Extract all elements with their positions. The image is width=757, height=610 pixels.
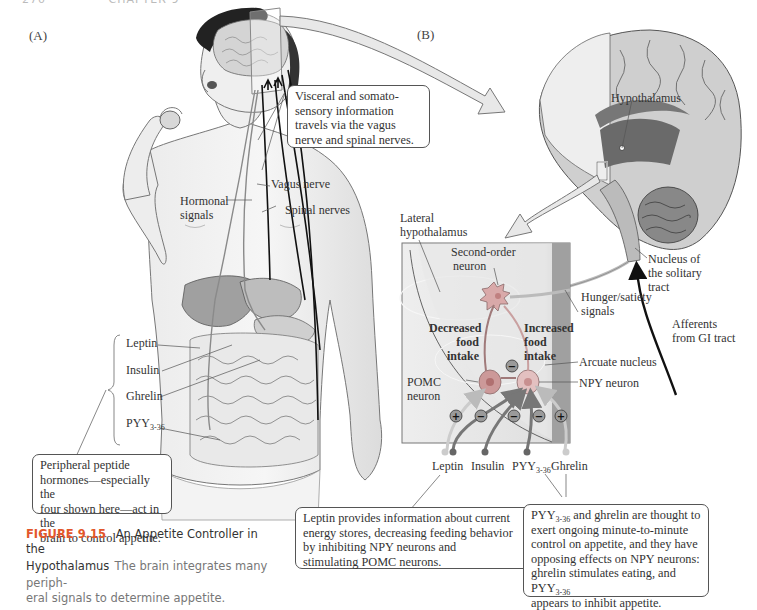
text: ghrelin stimulates eating, and PYY bbox=[531, 566, 676, 595]
label-line: POMC bbox=[407, 375, 441, 389]
input-label-ghrelin: Ghrelin bbox=[551, 459, 588, 473]
callout-peripheral-hormones: Peripheral peptide hormones—especially t… bbox=[32, 454, 172, 514]
callout-line: stimulating POMC neurons. bbox=[303, 555, 527, 570]
label-spinal-nerves: Spinal nerves bbox=[285, 203, 350, 217]
callout-visceral-somatosensory: Visceral and somato- sensory information… bbox=[287, 85, 430, 148]
label-line: food bbox=[524, 335, 574, 349]
label-npy-neuron: NPY neuron bbox=[579, 376, 639, 390]
label-line: intake bbox=[429, 349, 479, 363]
label-line: tract bbox=[648, 280, 702, 294]
hormone-label-leptin: Leptin bbox=[126, 336, 157, 350]
callout-line: Peripheral peptide bbox=[40, 458, 164, 473]
label-line: Decreased bbox=[429, 321, 479, 335]
label-line: neuron bbox=[407, 389, 441, 403]
label-vagus-nerve: Vagus nerve bbox=[271, 177, 330, 191]
caption-title-line2: Hypothalamus bbox=[26, 559, 109, 573]
callout-line: appears to inhibit appetite. bbox=[531, 596, 701, 610]
hormone-label-pyy: PYY3-36 bbox=[126, 416, 165, 430]
zoom-arrow-to-inset bbox=[505, 175, 600, 238]
callout-line: hormones—especially the bbox=[40, 473, 164, 502]
callout-line: Visceral and somato- bbox=[295, 89, 422, 104]
svg-text:−: − bbox=[535, 411, 543, 422]
label-line: neuron bbox=[451, 259, 516, 273]
callout-line: exert ongoing minute-to-minute bbox=[531, 523, 701, 538]
text: and ghrelin are thought to bbox=[570, 508, 700, 522]
callout-line: Leptin provides information about curren… bbox=[303, 511, 527, 526]
label-afferents-gi: Afferents from GI tract bbox=[672, 317, 735, 345]
figure-caption: FIGURE 9.15 An Appetite Controller in th… bbox=[26, 527, 276, 606]
input-label-pyy: PYY3-36 bbox=[512, 459, 551, 473]
label-line: signals bbox=[180, 208, 229, 222]
label-line: the solitary bbox=[648, 266, 702, 280]
label-line: intake bbox=[524, 349, 574, 363]
input-label-leptin: Leptin bbox=[432, 459, 463, 473]
label-line: signals bbox=[581, 304, 652, 318]
callout-pyy-ghrelin: PYY3-36 and ghrelin are thought to exert… bbox=[523, 504, 709, 597]
caption-body-line2: eral signals to determine appetite. bbox=[26, 591, 276, 606]
label-hypothalamus: Hypothalamus bbox=[611, 91, 681, 105]
callout-line: nerve and spinal nerves. bbox=[295, 133, 422, 148]
label-line: Hunger/satiety bbox=[581, 290, 652, 304]
label-line: from GI tract bbox=[672, 331, 735, 345]
label-lateral-hypothalamus: Lateral hypothalamus bbox=[400, 211, 467, 239]
label-line: Increased bbox=[524, 321, 574, 335]
label-line: Nucleus of bbox=[648, 252, 702, 266]
input-label-insulin: Insulin bbox=[471, 459, 504, 473]
callout-line: travels via the vagus bbox=[295, 118, 422, 133]
svg-text:+: + bbox=[452, 411, 460, 422]
callout-line: control on appetite, and they have bbox=[531, 537, 701, 552]
callout-line: sensory information bbox=[295, 104, 422, 119]
callout-line: opposing effects on NPY neurons: bbox=[531, 552, 701, 567]
label-hunger-satiety: Hunger/satiety signals bbox=[581, 290, 652, 318]
label-pomc-neuron: POMC neuron bbox=[407, 375, 441, 403]
figure-number: FIGURE 9.15 bbox=[26, 527, 106, 541]
label-line: Second-order bbox=[451, 245, 516, 259]
label-line: Afferents bbox=[672, 317, 735, 331]
label-hormonal-signals: Hormonal signals bbox=[180, 194, 229, 222]
callout-line: PYY3-36 and ghrelin are thought to bbox=[531, 508, 701, 523]
text: PYY bbox=[531, 508, 556, 522]
label-text: PYY bbox=[512, 459, 536, 473]
label-second-order-neuron: Second-order neuron bbox=[451, 245, 516, 273]
label-line: Lateral bbox=[400, 211, 467, 225]
callout-line: ghrelin stimulates eating, and PYY3-36 bbox=[531, 566, 701, 595]
svg-text:+: + bbox=[557, 411, 565, 422]
label-line: food bbox=[429, 335, 479, 349]
label-subscript: 3-36 bbox=[536, 466, 551, 475]
label-subscript: 3-36 bbox=[150, 423, 165, 432]
hormone-label-insulin: Insulin bbox=[126, 363, 159, 377]
label-decreased-food-intake: Decreased food intake bbox=[429, 321, 479, 363]
hormone-label-ghrelin: Ghrelin bbox=[126, 389, 163, 403]
callout-line: energy stores, decreasing feeding behavi… bbox=[303, 526, 527, 541]
label-text: PYY bbox=[126, 416, 150, 430]
svg-text:−: − bbox=[477, 411, 485, 422]
callout-leptin: Leptin provides information about curren… bbox=[295, 507, 535, 569]
callout-line: by inhibiting NPY neurons and bbox=[303, 540, 527, 555]
label-increased-food-intake: Increased food intake bbox=[524, 321, 574, 363]
brain-sagittal bbox=[539, 30, 741, 262]
svg-text:−: − bbox=[510, 411, 518, 422]
label-line: Hormonal bbox=[180, 194, 229, 208]
label-arcuate-nucleus: Arcuate nucleus bbox=[579, 355, 657, 369]
label-nucleus-solitary-tract: Nucleus of the solitary tract bbox=[648, 252, 702, 294]
label-line: hypothalamus bbox=[400, 225, 467, 239]
svg-text:−: − bbox=[508, 361, 516, 372]
